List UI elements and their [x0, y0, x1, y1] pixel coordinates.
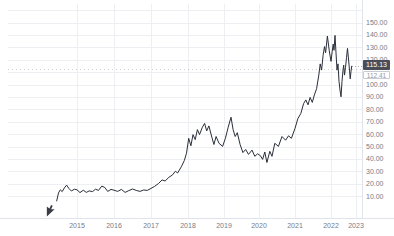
- price-scale-tick-label: 90.00: [366, 93, 384, 101]
- price-scale-tick-label: 20.00: [366, 180, 384, 188]
- time-axis[interactable]: 201520162017201820192020202120222023: [0, 218, 394, 236]
- price-scale-tick-label: 150.00: [366, 19, 387, 27]
- price-scale-tick-label: 140.00: [366, 31, 387, 39]
- price-scale-tick-label: 130.00: [366, 44, 387, 52]
- time-axis-tick-label: 2022: [323, 222, 339, 230]
- price-scale-tick-label: 100.00: [366, 81, 387, 89]
- price-scale-tick-label: 70.00: [366, 118, 384, 126]
- time-axis-tick-label: 2020: [251, 222, 267, 230]
- time-axis-tick-label: 2019: [216, 222, 232, 230]
- price-chart-widget: USD 150.00140.00130.00120.00100.0090.008…: [0, 0, 394, 236]
- price-scale-tick-label: 60.00: [366, 131, 384, 139]
- time-axis-tick-label: 2021: [287, 222, 303, 230]
- price-scale[interactable]: USD 150.00140.00130.00120.00100.0090.008…: [362, 0, 394, 218]
- price-scale-tick-label: 80.00: [366, 106, 384, 114]
- price-scale-tick-label: 10.00: [366, 193, 384, 201]
- time-axis-tick-label: 2016: [106, 222, 122, 230]
- current-price-badge: 115.13: [363, 60, 390, 70]
- time-axis-tick-label: 2015: [69, 222, 85, 230]
- time-axis-tick-label: 2017: [143, 222, 159, 230]
- price-scale-tick-label: 30.00: [366, 168, 384, 176]
- mouse-cursor-icon: [46, 205, 56, 217]
- previous-close-label: 112.41: [363, 71, 390, 79]
- time-axis-tick-label: 2018: [180, 222, 196, 230]
- time-axis-tick-label: 2023: [348, 222, 364, 230]
- price-chart-canvas[interactable]: [0, 0, 394, 236]
- price-scale-tick-label: 40.00: [366, 155, 384, 163]
- price-scale-tick-label: 50.00: [366, 143, 384, 151]
